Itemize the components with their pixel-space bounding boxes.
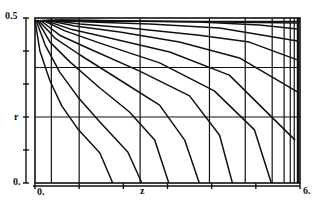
x-tick-label-left: 0. — [37, 187, 45, 197]
x-tick-label-right: 6. — [303, 186, 311, 196]
contour-chart — [0, 0, 321, 208]
x-axis-label: z — [140, 186, 144, 196]
contour-line — [44, 20, 295, 140]
contour-line — [46, 20, 297, 92]
y-tick-label-bottom: 0. — [13, 177, 21, 187]
contour-line — [42, 20, 271, 183]
y-axis-label: r — [14, 112, 18, 122]
contour-line — [38, 20, 199, 183]
contour-line — [35, 20, 113, 183]
contour-curves — [35, 20, 297, 183]
y-tick-label-top: 0.5 — [5, 11, 18, 21]
